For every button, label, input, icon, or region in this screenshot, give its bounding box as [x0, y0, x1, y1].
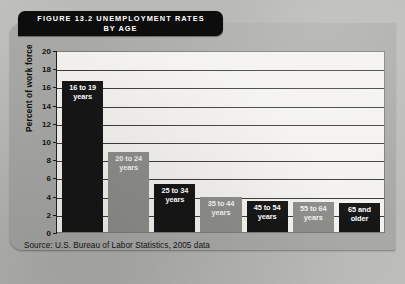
source-note: Source: U.S. Bureau of Labor Statistics,… — [24, 241, 210, 250]
bar-chart: Percent of work force 02468101214161820 … — [10, 23, 395, 223]
bar-label-line-1: 45 to 54 — [247, 203, 288, 212]
bar-label-line-2: years — [154, 195, 195, 204]
y-axis-tick-label: 4 — [47, 192, 51, 201]
bar-label-line-1: 25 to 34 — [154, 186, 195, 195]
y-axis-ticks: 02468101214161820 — [37, 51, 57, 233]
plot-area: 16 to 19years20 to 24years25 to 34years3… — [57, 51, 385, 233]
bar-label-line-1: 20 to 24 — [108, 154, 149, 163]
bar-label-line-2: years — [108, 163, 149, 172]
y-axis-tick-label: 2 — [47, 210, 51, 219]
bar-label-line-2: years — [247, 212, 288, 221]
y-axis-tick-label: 12 — [42, 119, 51, 128]
bar-55-to-64-years[interactable]: 55 to 64years — [293, 202, 334, 232]
y-axis-tick-label: 18 — [42, 65, 51, 74]
bar-25-to-34-years[interactable]: 25 to 34years — [154, 184, 195, 232]
gridline — [57, 143, 384, 144]
bar-45-to-54-years[interactable]: 45 to 54years — [247, 201, 288, 232]
gridline — [57, 161, 384, 162]
y-axis-tick-label: 16 — [42, 83, 51, 92]
bar-label: 35 to 44years — [200, 199, 241, 217]
y-axis-tick-label: 20 — [42, 47, 51, 56]
bar-label-line-1: 35 to 44 — [200, 199, 241, 208]
gridline — [57, 70, 384, 71]
bar-20-to-24-years[interactable]: 20 to 24years — [108, 152, 149, 232]
bar-label: 65 andolder — [339, 205, 380, 223]
gridline — [57, 107, 384, 108]
bar-label-line-2: older — [339, 214, 380, 223]
figure-title-banner: FIGURE 13.2 UNEMPLOYMENT RATES BY AGE — [18, 11, 223, 36]
bar-label-line-1: 65 and — [339, 205, 380, 214]
gridline — [57, 125, 384, 126]
bar-label-line-2: years — [293, 213, 334, 222]
gridline — [57, 179, 384, 180]
y-axis-tick-label: 6 — [47, 174, 51, 183]
gridline — [57, 88, 384, 89]
y-axis-tick-label: 0 — [47, 229, 51, 238]
bar-16-to-19-years[interactable]: 16 to 19years — [62, 81, 103, 232]
bar-35-to-44-years[interactable]: 35 to 44years — [200, 197, 241, 232]
y-axis-title: Percent of work force — [24, 33, 34, 143]
bar-label-line-1: 16 to 19 — [62, 83, 103, 92]
figure-title-line-2: BY AGE — [103, 24, 137, 34]
bar-label-line-1: 55 to 64 — [293, 204, 334, 213]
bar-label: 20 to 24years — [108, 154, 149, 172]
bar-label: 45 to 54years — [247, 203, 288, 221]
bar-label: 16 to 19years — [62, 83, 103, 101]
y-axis-tick-label: 14 — [42, 101, 51, 110]
figure-title-line-1: FIGURE 13.2 UNEMPLOYMENT RATES — [36, 14, 204, 24]
page-background: FIGURE 13.2 UNEMPLOYMENT RATES BY AGE Pe… — [0, 0, 405, 284]
bar-65-and-older[interactable]: 65 andolder — [339, 203, 380, 232]
bar-label-line-2: years — [62, 92, 103, 101]
y-axis-tick-label: 10 — [42, 138, 51, 147]
bar-label: 25 to 34years — [154, 186, 195, 204]
bar-label: 55 to 64years — [293, 204, 334, 222]
y-axis-tick-label: 8 — [47, 156, 51, 165]
bar-label-line-2: years — [200, 208, 241, 217]
